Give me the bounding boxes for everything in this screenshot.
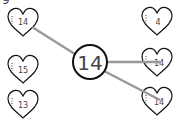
heart-value: 14	[18, 18, 28, 27]
partial-top-char: 9	[2, 0, 10, 7]
heart-value: 4	[155, 18, 160, 27]
left-heart-1[interactable]: 14	[8, 8, 38, 36]
left-heart-3[interactable]: 13	[8, 90, 38, 118]
match-line-right-3	[104, 71, 160, 100]
match-line-left-1	[32, 27, 78, 56]
center-value: 14	[77, 51, 102, 75]
center-circle: 14	[73, 45, 107, 79]
heart-value: 14	[154, 59, 164, 68]
left-heart-2[interactable]: 15	[8, 55, 38, 83]
right-heart-3[interactable]: 14	[142, 87, 172, 115]
matching-worksheet: 9 14 15 13 4 14 14 14	[0, 0, 178, 129]
heart-value: 13	[18, 101, 28, 110]
heart-value: 15	[18, 66, 28, 75]
right-heart-1[interactable]: 4	[142, 7, 172, 35]
